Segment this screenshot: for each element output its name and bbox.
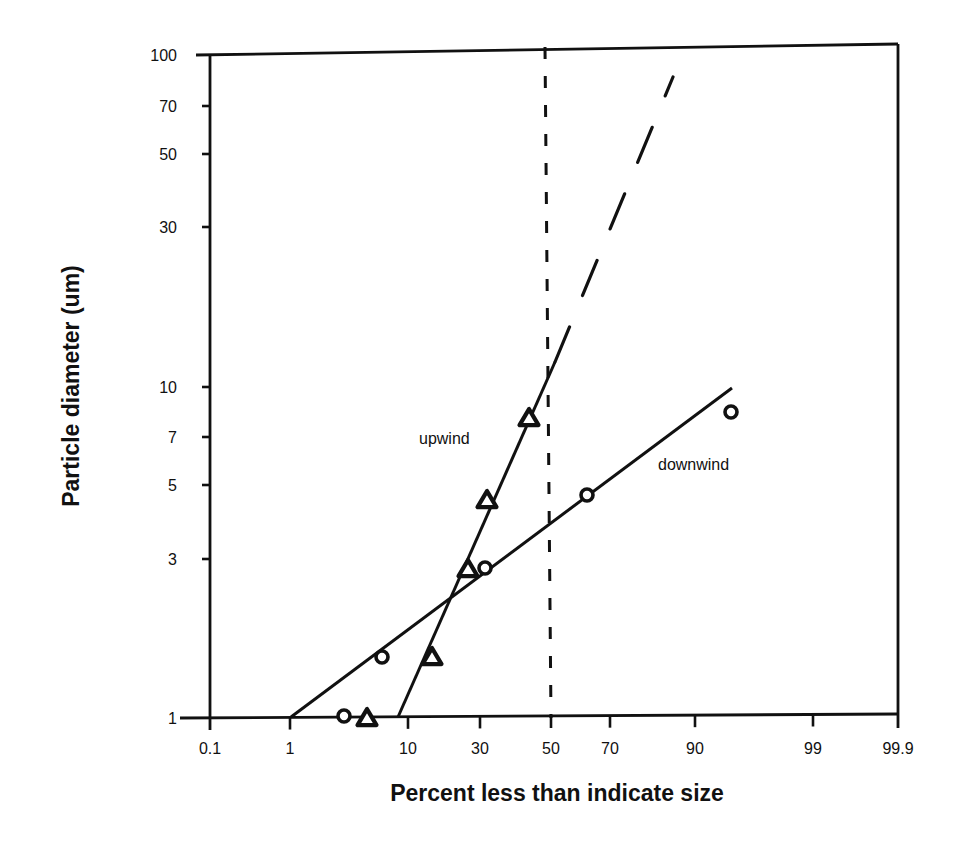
y-tick-label: 7 [168,429,177,446]
x-tick-label: 99 [804,740,822,757]
y-tick-label: 100 [150,47,177,64]
x-tick-label: 10 [399,740,417,757]
upwind-label: upwind [419,430,470,447]
top-border [196,44,898,55]
y-tick-label: 10 [159,379,177,396]
triangle-marker-icon [358,709,377,725]
x-axis-line [180,714,898,718]
series-annotations: upwinddownwind [419,430,729,473]
x-tick-label: 90 [686,740,704,757]
y-tick-label: 70 [159,98,177,115]
x-axis-title: Percent less than indicate size [390,780,724,806]
y-axis-ticks: 100705030107531 [150,47,210,727]
y-axis-title: Particle diameter (um) [58,265,84,507]
circle-marker-icon [338,710,350,722]
plot-frame [180,44,898,730]
data-markers [338,406,737,725]
x-tick-label: 30 [471,740,489,757]
x-tick-label: 99.9 [882,740,913,757]
y-tick-label: 3 [168,551,177,568]
downwind-label: downwind [658,456,729,473]
upwind-extrapolation-line [555,77,673,362]
x-axis-ticks: 0.1110305070909999.9 [199,714,914,757]
triangle-marker-icon [478,491,497,507]
y-tick-label: 50 [159,146,177,163]
x-tick-label: 0.1 [199,740,221,757]
fit-lines [291,77,732,717]
circle-marker-icon [581,489,593,501]
y-tick-label: 5 [168,477,177,494]
triangle-marker-icon [459,560,478,576]
x-tick-label: 70 [601,740,619,757]
x-tick-label: 1 [286,740,295,757]
triangle-marker-icon [520,409,539,425]
y-tick-label: 30 [159,219,177,236]
circle-marker-icon [376,651,388,663]
triangle-marker-icon [423,648,442,664]
y-tick-label: 1 [168,710,177,727]
x-tick-label: 50 [542,740,560,757]
circle-marker-icon [725,406,737,418]
circle-marker-icon [479,562,491,574]
downwind-fit-line [291,388,732,717]
particle-size-chart: 0.1110305070909999.9 100705030107531 upw… [0,0,968,842]
